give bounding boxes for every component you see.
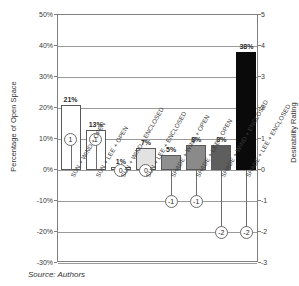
source-note: Source: Authors <box>28 270 85 279</box>
y-tickmark-right <box>258 76 261 77</box>
y-axis-title-right: Desirability Rating <box>289 68 298 198</box>
y-tick-label-right: -3 <box>261 259 283 266</box>
y-tick-label-left: 10% <box>27 135 53 142</box>
y-tickmark-right <box>258 231 261 232</box>
y-tick-label-left: 50% <box>27 11 53 18</box>
y-tick-label-right: -2 <box>261 228 283 235</box>
y-tickmark-left <box>54 262 57 263</box>
y-tick-label-right: 5 <box>261 11 283 18</box>
y-tick-label-left: 20% <box>27 104 53 111</box>
y-tick-label-left: -20% <box>27 228 53 235</box>
chart-figure: Percentage of Open Space Desirability Ra… <box>0 0 299 286</box>
y-tick-label-right: 3 <box>261 73 283 80</box>
y-tick-label-right: 4 <box>261 42 283 49</box>
y-axis-left-ticks: 50%40%30%20%10%0%-10%-20%-30% <box>27 14 53 262</box>
y-tick-label-left: 30% <box>27 73 53 80</box>
y-tick-label-left: -10% <box>27 197 53 204</box>
plot-area: 21%13%1%7%5%8%8%38% 1100-1-1-2-2 SUN + W… <box>57 14 258 262</box>
y-tick-label-right: 0 <box>261 166 283 173</box>
y-tickmark-right <box>258 138 261 139</box>
y-axis-title-left: Percentage of Open Space <box>9 62 18 192</box>
y-tickmark-right <box>258 262 261 263</box>
y-tick-label-right: -1 <box>261 197 283 204</box>
y-tick-label-left: 40% <box>27 42 53 49</box>
y-tickmark-right <box>258 200 261 201</box>
y-tickmark-right <box>258 14 261 15</box>
y-tick-label-left: 0% <box>27 166 53 173</box>
y-tickmark-right <box>258 169 261 170</box>
category-labels-layer: SUN + WIND + OPENSUN + LEE + OPENSUN + W… <box>58 15 257 261</box>
gridline <box>58 263 257 264</box>
category-label: SUN + WIND + ENCLOSED <box>119 106 165 179</box>
y-tick-label-left: -30% <box>27 259 53 266</box>
